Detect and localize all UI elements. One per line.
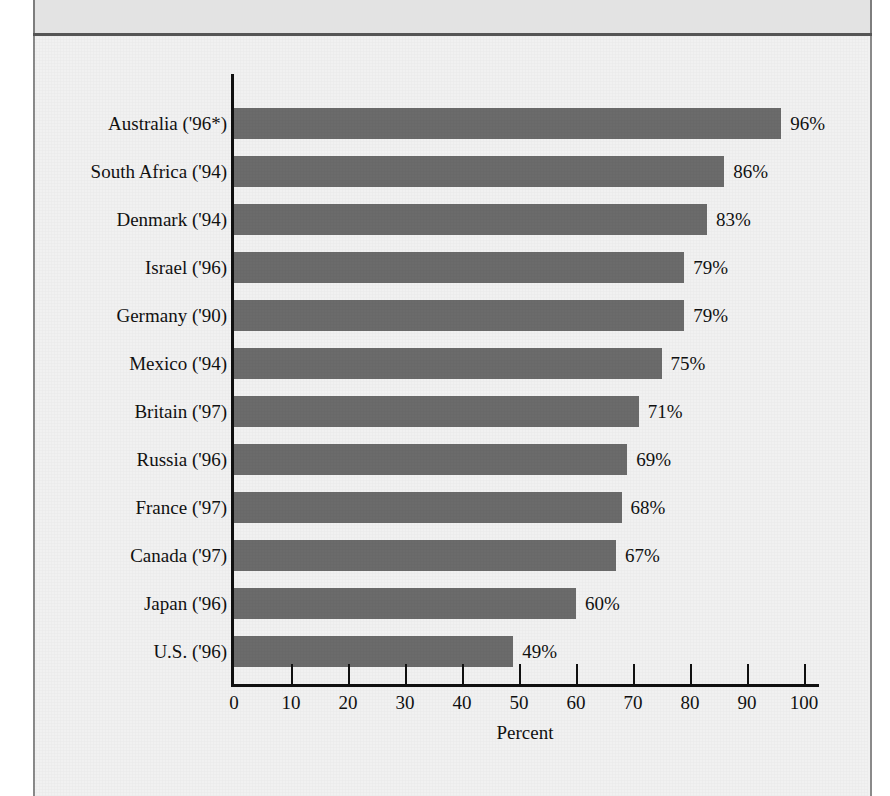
x-axis-tick-label: 20 xyxy=(318,692,378,714)
bar xyxy=(234,204,707,235)
bar xyxy=(234,444,627,475)
x-axis-tick-mark xyxy=(348,664,350,684)
bar-category-label: Mexico ('94) xyxy=(0,352,227,375)
x-axis-line xyxy=(231,684,819,687)
bar-value-label: 67% xyxy=(625,544,660,567)
x-axis-tick-mark xyxy=(291,664,293,684)
bar-category-label: Britain ('97) xyxy=(0,400,227,423)
bar-row: South Africa ('94)86% xyxy=(0,156,890,187)
bar xyxy=(234,348,662,379)
bar xyxy=(234,636,513,667)
bar-row: Denmark ('94)83% xyxy=(0,204,890,235)
x-axis-tick-label: 90 xyxy=(717,692,777,714)
bar-category-label: Germany ('90) xyxy=(0,304,227,327)
bar-row: Britain ('97)71% xyxy=(0,396,890,427)
bar-category-label: France ('97) xyxy=(0,496,227,519)
x-axis-tick-label: 80 xyxy=(660,692,720,714)
x-axis-tick-label: 0 xyxy=(204,692,264,714)
bar-value-label: 79% xyxy=(693,304,728,327)
x-axis-tick-mark xyxy=(405,664,407,684)
x-axis-tick-label: 40 xyxy=(432,692,492,714)
bar-row: Japan ('96)60% xyxy=(0,588,890,619)
x-axis-tick-mark xyxy=(804,664,806,684)
bar-value-label: 86% xyxy=(733,160,768,183)
bar-row: Mexico ('94)75% xyxy=(0,348,890,379)
figure-page: Percent Australia ('96*)96%South Africa … xyxy=(0,0,890,796)
bar-value-label: 49% xyxy=(522,640,557,663)
x-axis-tick-mark xyxy=(747,664,749,684)
bar-category-label: Australia ('96*) xyxy=(0,112,227,135)
x-axis-tick-label: 70 xyxy=(603,692,663,714)
bar-category-label: South Africa ('94) xyxy=(0,160,227,183)
bar-row: Canada ('97)67% xyxy=(0,540,890,571)
x-axis-tick-mark xyxy=(633,664,635,684)
bar xyxy=(234,492,622,523)
x-axis-tick-mark xyxy=(690,664,692,684)
x-axis-tick-label: 50 xyxy=(489,692,549,714)
bar-value-label: 83% xyxy=(716,208,751,231)
x-axis-tick-mark xyxy=(519,664,521,684)
bar xyxy=(234,396,639,427)
bar-value-label: 60% xyxy=(585,592,620,615)
bar-value-label: 79% xyxy=(693,256,728,279)
bar-value-label: 68% xyxy=(631,496,666,519)
bar-row: Russia ('96)69% xyxy=(0,444,890,475)
bar-value-label: 75% xyxy=(671,352,706,375)
bar xyxy=(234,252,684,283)
x-axis-title: Percent xyxy=(231,722,819,744)
bar-value-label: 69% xyxy=(636,448,671,471)
bar-row: France ('97)68% xyxy=(0,492,890,523)
x-axis-tick-label: 100 xyxy=(774,692,834,714)
bar xyxy=(234,156,724,187)
bar xyxy=(234,588,576,619)
bar-value-label: 71% xyxy=(648,400,683,423)
x-axis-tick-label: 30 xyxy=(375,692,435,714)
bar-category-label: Japan ('96) xyxy=(0,592,227,615)
x-axis-tick-mark xyxy=(462,664,464,684)
bar-chart-plot-area: Percent Australia ('96*)96%South Africa … xyxy=(0,0,890,796)
bar-row: Australia ('96*)96% xyxy=(0,108,890,139)
bar-category-label: Israel ('96) xyxy=(0,256,227,279)
bar-row: Germany ('90)79% xyxy=(0,300,890,331)
bar-category-label: Denmark ('94) xyxy=(0,208,227,231)
x-axis-tick-mark xyxy=(576,664,578,684)
x-axis-tick-label: 10 xyxy=(261,692,321,714)
bar-row: U.S. ('96)49% xyxy=(0,636,890,667)
bar-row: Israel ('96)79% xyxy=(0,252,890,283)
bar xyxy=(234,300,684,331)
x-axis-tick-label: 60 xyxy=(546,692,606,714)
bar xyxy=(234,108,781,139)
bar-value-label: 96% xyxy=(790,112,825,135)
bar xyxy=(234,540,616,571)
bar-category-label: U.S. ('96) xyxy=(0,640,227,663)
bar-category-label: Russia ('96) xyxy=(0,448,227,471)
bar-category-label: Canada ('97) xyxy=(0,544,227,567)
